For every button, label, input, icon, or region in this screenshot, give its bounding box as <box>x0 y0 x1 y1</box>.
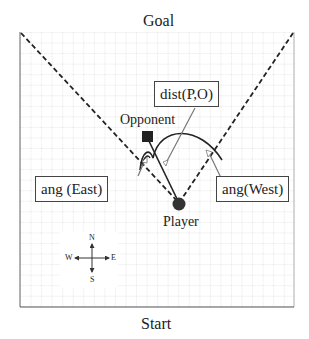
opponent-label: Opponent <box>120 113 175 127</box>
player-marker <box>173 198 186 211</box>
opponent-marker <box>142 131 153 142</box>
goal-label: Goal <box>143 13 174 29</box>
start-label: Start <box>141 316 171 332</box>
diagram-canvas <box>0 0 309 339</box>
compass-east-label: E <box>111 254 116 262</box>
ang-east-label-box: ang (East) <box>35 176 108 202</box>
compass-west-label: W <box>65 254 73 262</box>
player-label: Player <box>163 215 199 229</box>
ang-west-label-box: ang(West) <box>216 176 289 202</box>
compass-north-label: N <box>89 234 95 242</box>
dist-label-box: dist(P,O) <box>154 81 219 107</box>
compass-south-label: S <box>90 276 94 284</box>
